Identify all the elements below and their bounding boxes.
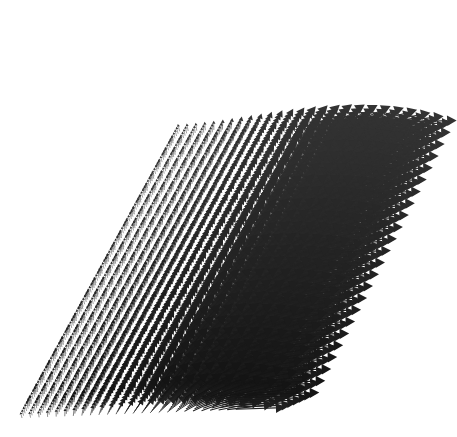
- quiver-plot-figure: [0, 0, 457, 437]
- quiver-vector-field-canvas: [0, 0, 457, 437]
